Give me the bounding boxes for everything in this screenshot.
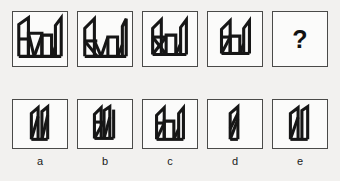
sequence-cell-5: ? (272, 11, 328, 67)
spacer (198, 11, 207, 67)
option-a-figure (13, 100, 67, 148)
option-e[interactable] (272, 99, 328, 149)
options-row: a b (12, 99, 328, 167)
spacer (133, 11, 142, 67)
sequence-figure-1 (13, 12, 67, 66)
option-e-figure (273, 100, 327, 148)
sequence-panel-question: ? (272, 11, 328, 67)
spacer (68, 11, 77, 67)
option-c-label: c (167, 156, 173, 167)
spacer (198, 99, 207, 167)
sequence-cell-1 (12, 11, 68, 67)
option-d-figure (208, 100, 262, 148)
spacer (68, 99, 77, 167)
option-e-label: e (297, 156, 303, 167)
spacer (263, 11, 272, 67)
option-c-figure (143, 100, 197, 148)
sequence-figure-2 (78, 12, 132, 66)
option-b[interactable] (77, 99, 133, 149)
sequence-panel-2 (77, 11, 133, 67)
sequence-cell-2 (77, 11, 133, 67)
sequence-cell-4 (207, 11, 263, 67)
sequence-figure-3 (143, 12, 197, 66)
sequence-panel-4 (207, 11, 263, 67)
option-a-label: a (37, 156, 43, 167)
sequence-panel-3 (142, 11, 198, 67)
option-a[interactable] (12, 99, 68, 149)
option-c[interactable] (142, 99, 198, 149)
option-b-label: b (102, 156, 108, 167)
option-cell-e: e (272, 99, 328, 167)
sequence-panel-1 (12, 11, 68, 67)
option-b-figure (78, 100, 132, 148)
spacer (263, 99, 272, 167)
sequence-row: ? (12, 11, 328, 67)
question-mark: ? (273, 12, 327, 66)
sequence-cell-3 (142, 11, 198, 67)
spacer (133, 99, 142, 167)
sequence-figure-4 (208, 12, 262, 66)
option-d-label: d (232, 156, 238, 167)
option-cell-a: a (12, 99, 68, 167)
visual-reasoning-puzzle: ? a (0, 0, 340, 181)
option-cell-c: c (142, 99, 198, 167)
option-cell-b: b (77, 99, 133, 167)
option-d[interactable] (207, 99, 263, 149)
option-cell-d: d (207, 99, 263, 167)
